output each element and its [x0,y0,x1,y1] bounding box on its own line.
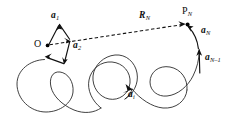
a2-segment [60,25,70,40]
chain-coil-group [17,50,200,112]
a2-label: a2 [73,41,81,51]
origin-label: O [34,39,41,49]
a2-label-sub: 2 [78,44,81,51]
resultant-label: RN [139,11,150,21]
middle-loop-path [89,55,138,108]
origin-point-dot [46,44,50,48]
ai-label-sub: i [133,93,135,100]
ai-label: ai [128,90,135,100]
chain-diagram-canvas [0,0,240,127]
right-loop-path [150,50,200,96]
end-point-label: PN [182,6,192,16]
aN-1-segment [199,51,200,73]
aN-1-label-sub: N–1 [210,56,221,63]
end-point-label-sub: N [188,10,192,17]
aN-1-label: aN–1 [205,53,220,63]
resultant-label-sub: N [146,14,150,21]
RN-arrow-head [178,21,185,27]
end-point-dot [186,22,190,26]
a3-segment [65,41,70,62]
a1-label-sub: 1 [56,14,59,21]
random-walk-figure: O PN RN a1 a2 ai aN aN–1 [0,0,240,127]
RN-dashed-line [50,25,183,45]
end-segments-group [187,25,202,73]
aN-label-sub: N [206,29,210,36]
a1-label: a1 [51,11,59,21]
aN-label: aN [201,26,210,36]
